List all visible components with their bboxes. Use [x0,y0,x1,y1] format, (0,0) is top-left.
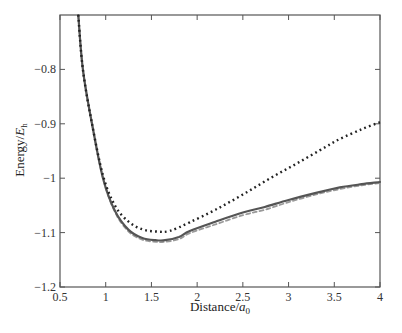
curve-dashed [78,15,380,242]
energy-distance-chart: 0.511.522.533.54 −1.2−1.1−1−0.9−0.8 Dist… [0,0,402,333]
x-tick-label: 1 [103,290,109,304]
y-tick-label: −0.9 [34,117,56,131]
data-curves [78,15,380,242]
y-tick-label: −1.1 [34,226,56,240]
x-tick-label: 4 [377,290,383,304]
x-tick-label: 3.5 [327,290,342,304]
plot-border [60,15,380,287]
curve-dotted [78,15,380,232]
plot-frame [60,15,380,287]
axis-ticks [60,15,380,287]
x-axis-label: Distance/a0 [190,299,251,316]
y-tick-label: −1.2 [34,280,56,294]
x-tick-label: 1.5 [144,290,159,304]
curve-solid [78,15,380,241]
y-tick-label: −0.8 [34,62,56,76]
y-tick-labels: −1.2−1.1−1−0.9−0.8 [34,62,56,294]
y-axis-label: Energy/Eh [12,123,29,177]
y-tick-label: −1 [43,171,56,185]
x-tick-label: 3 [286,290,292,304]
